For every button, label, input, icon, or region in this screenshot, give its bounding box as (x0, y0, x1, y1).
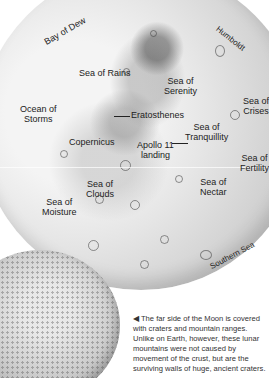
map-seam (0, 167, 269, 168)
caption-arrow-icon: ◀ (133, 314, 139, 323)
label-eratosthenes: Eratosthenes (131, 110, 184, 120)
label-sea-of-rains: Sea of Rains (79, 68, 131, 78)
caption-text: The far side of the Moon is covered with… (133, 314, 266, 373)
label-ocean-of-storms: Ocean of Storms (20, 104, 57, 124)
label-sea-of-moisture: Sea of Moisture (42, 197, 77, 217)
label-apollo-11-landing: Apollo 11 landing (137, 140, 174, 160)
label-sea-of-nectar: Sea of Nectar (200, 177, 227, 197)
label-sea-of-clouds: Sea of Clouds (86, 179, 114, 199)
label-sea-of-tranquillity: Sea of Tranquillity (185, 122, 228, 142)
label-sea-of-fertility: Sea of Fertility (240, 153, 269, 173)
label-sea-of-crises: Sea of Crises (243, 96, 269, 116)
label-sea-of-serenity: Sea of Serenity (164, 76, 197, 96)
figure-caption: ◀ The far side of the Moon is covered wi… (133, 314, 267, 374)
apollo-11-leader (172, 143, 188, 144)
label-copernicus: Copernicus (69, 137, 115, 147)
eratosthenes-leader (114, 116, 130, 117)
